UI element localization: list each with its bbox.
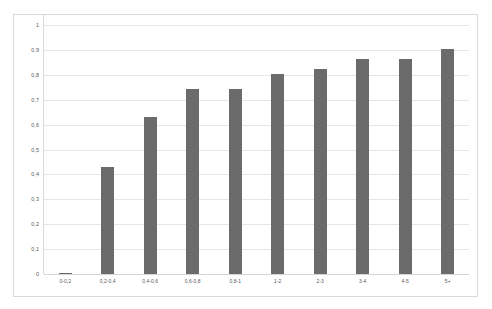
bar-slot xyxy=(257,25,300,274)
y-axis-tick-label: 0 xyxy=(36,271,39,277)
x-axis-tick-label: 2-3 xyxy=(299,274,342,296)
x-axis-tick-label: 3-4 xyxy=(342,274,385,296)
bar-slot xyxy=(172,25,215,274)
x-axis-tick-label: 0,2-0,4 xyxy=(87,274,130,296)
bar xyxy=(144,117,157,274)
bar-slot xyxy=(427,25,470,274)
x-axis-tick-label: 4-5 xyxy=(384,274,427,296)
bar-slot xyxy=(129,25,172,274)
bar-slot xyxy=(44,25,87,274)
bar-slot xyxy=(342,25,385,274)
bar-chart-figure: 00,10,20,30,40,50,60,70,80,91 0-0,20,2-0… xyxy=(13,14,478,297)
bar-slot xyxy=(87,25,130,274)
y-axis-tick-label: 0,5 xyxy=(31,147,39,153)
bar xyxy=(441,49,454,274)
y-axis-tick-label: 0,4 xyxy=(31,171,39,177)
x-axis-tick-labels: 0-0,20,2-0,40,4-0,60,6-0,80,8-11-22-33-4… xyxy=(44,274,469,296)
y-axis-tick-label: 0,6 xyxy=(31,122,39,128)
bar-slot xyxy=(384,25,427,274)
y-axis-tick-label: 0,2 xyxy=(31,221,39,227)
x-axis-tick-label: 0,6-0,8 xyxy=(172,274,215,296)
bar xyxy=(399,59,412,274)
y-axis-tick-label: 0,8 xyxy=(31,72,39,78)
bar-slot xyxy=(299,25,342,274)
bar xyxy=(229,89,242,275)
bar xyxy=(186,89,199,275)
y-axis-tick-label: 0,9 xyxy=(31,47,39,53)
y-axis-tick-label: 0,3 xyxy=(31,196,39,202)
bar xyxy=(101,167,114,274)
x-axis-tick-label: 0,4-0,6 xyxy=(129,274,172,296)
bar xyxy=(314,69,327,274)
x-axis-tick-label: 1-2 xyxy=(257,274,300,296)
x-axis-tick-label: 0,8-1 xyxy=(214,274,257,296)
bars-container xyxy=(44,25,469,274)
bar-slot xyxy=(214,25,257,274)
y-axis-tick-label: 1 xyxy=(36,22,39,28)
x-axis-tick-label: 5+ xyxy=(427,274,470,296)
x-axis-tick-label: 0-0,2 xyxy=(44,274,87,296)
bar xyxy=(271,74,284,274)
y-axis-tick-label: 0,1 xyxy=(31,246,39,252)
bar xyxy=(356,59,369,274)
plot-area: 00,10,20,30,40,50,60,70,80,91 0-0,20,2-0… xyxy=(44,25,469,274)
y-axis-tick-label: 0,7 xyxy=(31,97,39,103)
